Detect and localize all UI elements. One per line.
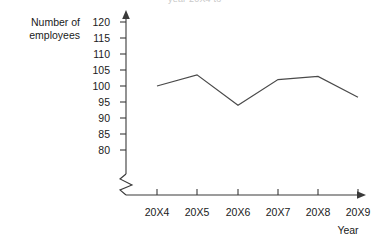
series-line-number-of-employees <box>157 75 358 105</box>
y-axis-arrowhead <box>122 10 130 19</box>
y-axis-break-zigzag <box>120 174 132 195</box>
